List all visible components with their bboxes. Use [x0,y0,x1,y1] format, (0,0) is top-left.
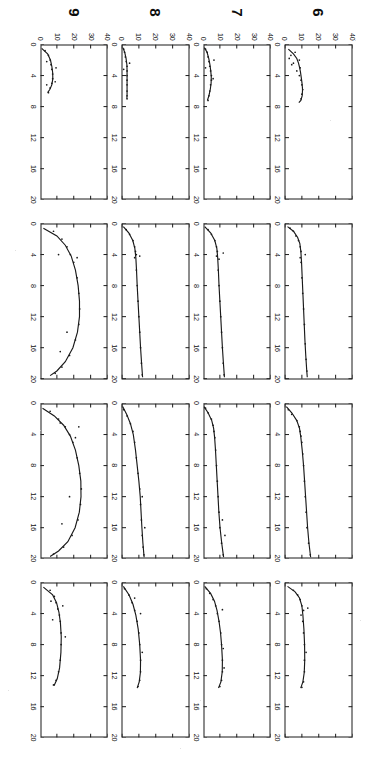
x-axis-tick-label: 20 [273,554,282,562]
x-axis-tick-label: 20 [191,375,200,383]
x-axis-tick-label: 8 [110,642,119,646]
data-point [53,683,55,685]
x-axis-tick-label: 0 [273,42,282,46]
x-axis-tick-label: 8 [28,642,37,646]
scan-artifact [355,40,356,41]
x-axis-tick-label: 0 [28,42,37,46]
x-axis-tick-label: 20 [273,195,282,203]
y-axis-tick-label: 40 [103,32,112,40]
data-point [216,255,218,257]
data-point [298,74,300,76]
scan-artifact [15,250,16,251]
y-axis-tick-label: 20 [151,32,160,40]
data-point [69,495,71,497]
plot-canvas [285,44,353,199]
x-axis-tick-label: 4 [28,611,37,615]
x-axis-tick-label: 4 [110,252,119,256]
fitted-curve [43,228,79,375]
x-axis-tick-label: 16 [191,702,200,710]
scan-artifact [8,690,9,691]
plot-panel-r8-c1 [122,44,190,199]
x-axis-tick-label: 0 [28,580,37,584]
data-point [143,526,145,528]
plot-panel-r8-c2 [122,223,190,378]
x-axis-tick-label: 0 [191,401,200,405]
fitted-curve [204,406,224,557]
plot-canvas [40,44,108,199]
data-point [299,257,301,259]
y-axis-tick-label: 30 [249,32,258,40]
x-axis-tick-label: 4 [110,611,119,615]
x-axis-tick-label: 0 [110,580,119,584]
data-point [46,60,48,62]
data-point [55,66,57,68]
x-axis-tick-label: 16 [28,523,37,531]
y-axis-tick-label: 30 [331,32,340,40]
y-axis-tick-label: 30 [86,32,95,40]
data-point [224,534,226,536]
x-axis-tick-label: 8 [191,463,200,467]
x-axis-tick-label: 20 [110,733,119,741]
x-axis-tick-label: 4 [191,432,200,436]
x-axis-tick-label: 8 [191,283,200,287]
data-point [290,63,292,65]
plot-canvas [40,403,108,558]
x-axis-tick-label: 0 [191,580,200,584]
x-axis-tick-label: 12 [110,492,119,500]
plot-canvas [203,403,271,558]
x-axis-tick-label: 12 [110,671,119,679]
x-axis-tick-label: 8 [110,283,119,287]
fitted-curve [43,407,81,555]
x-axis-tick-label: 4 [191,73,200,77]
plot-canvas [203,44,271,199]
y-axis-tick-label: 20 [69,32,78,40]
data-point [61,522,63,524]
data-point [133,257,135,259]
plot-canvas [203,582,271,737]
x-axis-tick-label: 8 [273,642,282,646]
scan-artifact [330,120,331,121]
plot-panel-r7-c2 [203,223,271,378]
plot-canvas [285,223,353,378]
x-axis-tick-label: 4 [28,432,37,436]
fitted-curve [204,47,211,100]
x-axis-tick-label: 8 [273,104,282,108]
y-axis-tick-label: 10 [215,32,224,40]
y-axis-tick-label: 20 [314,32,323,40]
x-axis-tick-label: 20 [191,554,200,562]
x-axis-tick-label: 4 [273,432,282,436]
x-axis-tick-label: 16 [110,702,119,710]
y-axis-tick-label: 0 [199,36,208,40]
x-axis-tick-label: 0 [273,221,282,225]
row-label-8: 8 [147,8,164,16]
data-point [222,608,224,610]
x-axis-tick-label: 0 [273,580,282,584]
row-label-6: 6 [310,8,327,16]
data-point [223,666,225,668]
plot-panel-r9-c3 [40,403,108,558]
plot-panel-r6-c4 [285,582,353,737]
y-axis-tick-label: 30 [168,32,177,40]
x-axis-tick-label: 8 [28,104,37,108]
x-axis-tick-label: 16 [273,702,282,710]
x-axis-tick-label: 12 [110,133,119,141]
data-point [141,495,143,497]
plot-panel-r6-c3 [285,403,353,558]
x-axis-tick-label: 4 [273,611,282,615]
fitted-curve [286,406,310,557]
x-axis-tick-label: 8 [273,463,282,467]
small-multiples-grid: 0481216200102030406048121620048121620048… [0,0,372,761]
plot-canvas [122,582,190,737]
x-axis-tick-label: 16 [110,344,119,352]
fitted-curve [123,226,142,377]
plot-canvas [122,223,190,378]
data-point [213,59,215,61]
data-point [304,253,306,255]
x-axis-tick-label: 16 [110,164,119,172]
fitted-curve [43,586,61,685]
data-point [306,607,308,609]
plot-panel-r8-c3 [122,403,190,558]
data-point [292,62,294,64]
data-point [54,80,56,82]
x-axis-tick-label: 0 [28,221,37,225]
